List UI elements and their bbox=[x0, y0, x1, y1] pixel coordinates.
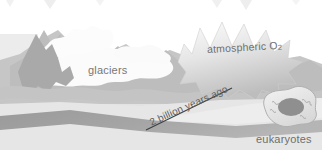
label-eukaryotes: eukaryotes bbox=[256, 133, 312, 145]
illustration-canvas bbox=[0, 0, 322, 150]
label-atmospheric-oxygen-subscript: 2 bbox=[278, 43, 283, 52]
label-glaciers: glaciers bbox=[88, 64, 128, 76]
eukaryote-cell bbox=[264, 86, 317, 126]
cell-nucleus bbox=[278, 98, 304, 116]
geologic-timeline-figure: glaciers atmospheric O2 2 billion years … bbox=[0, 0, 322, 150]
label-atmospheric-oxygen-text: atmospheric O bbox=[207, 39, 278, 55]
